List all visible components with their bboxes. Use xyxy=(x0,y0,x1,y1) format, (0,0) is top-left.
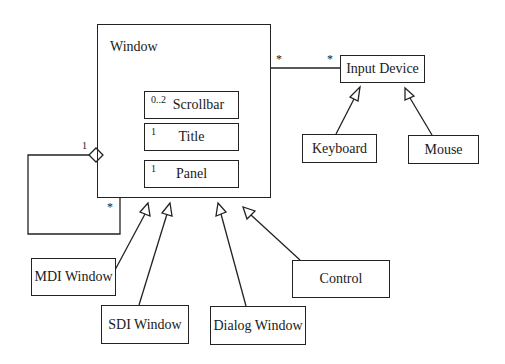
class-input-device[interactable]: Input Device xyxy=(340,55,425,83)
association-source-multiplicity: * xyxy=(276,52,282,67)
class-mdi-window[interactable]: MDI Window xyxy=(31,258,116,296)
association-target-multiplicity: * xyxy=(327,52,333,67)
generalization-arrow-icon xyxy=(140,203,150,216)
class-name: Window xyxy=(110,39,158,55)
class-name: Input Device xyxy=(346,61,419,77)
class-name: Title xyxy=(179,129,205,145)
aggregation-whole-multiplicity: 1 xyxy=(82,140,87,151)
dialog-generalization-line xyxy=(221,214,246,306)
class-name: Panel xyxy=(176,166,207,182)
multiplicity-label: 1 xyxy=(151,126,156,137)
class-dialog-window[interactable]: Dialog Window xyxy=(210,306,306,345)
class-name: Keyboard xyxy=(312,141,367,157)
class-name: Scrollbar xyxy=(159,97,224,113)
control-generalization-line xyxy=(251,215,300,260)
class-sdi-window[interactable]: SDI Window xyxy=(101,305,189,344)
class-name: Dialog Window xyxy=(213,318,302,334)
mouse-generalization-line xyxy=(410,98,432,135)
multiplicity-label: 0..2 xyxy=(151,94,166,105)
class-name: SDI Window xyxy=(108,317,181,333)
multiplicity-label: 1 xyxy=(151,163,156,174)
keyboard-generalization-line xyxy=(336,97,355,134)
generalization-arrow-icon xyxy=(162,203,172,216)
class-name: MDI Window xyxy=(34,269,112,285)
class-keyboard[interactable]: Keyboard xyxy=(302,134,377,163)
class-name: Mouse xyxy=(424,142,462,158)
generalization-arrow-icon xyxy=(350,87,360,101)
class-control[interactable]: Control xyxy=(292,260,390,298)
generalization-arrow-icon xyxy=(216,203,226,216)
class-scrollbar[interactable]: 0..2 Scrollbar xyxy=(144,91,239,119)
aggregation-part-multiplicity: * xyxy=(107,200,113,215)
class-panel[interactable]: 1 Panel xyxy=(144,160,239,188)
class-mouse[interactable]: Mouse xyxy=(408,135,479,164)
class-title[interactable]: 1 Title xyxy=(144,123,239,151)
generalization-arrow-icon xyxy=(405,88,414,100)
sdi-generalization-line xyxy=(139,214,167,305)
class-name: Control xyxy=(320,271,363,287)
